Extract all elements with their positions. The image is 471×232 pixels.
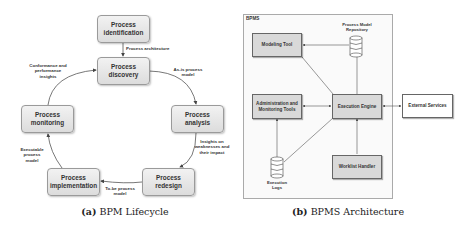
component-admin-monitoring-tools: Administration and Monitoring Tools — [252, 94, 302, 119]
database-icon-logs — [271, 157, 283, 178]
database-icon-repository — [350, 36, 362, 57]
caption-text-b: BPMS Architecture — [311, 206, 404, 217]
caption-bpms-architecture: (b) BPMS Architecture — [278, 206, 418, 217]
label-execution-logs: Execution Logs — [260, 180, 294, 190]
component-execution-engine: Execution Engine — [332, 94, 382, 119]
component-modeling-tool: Modeling Tool — [252, 33, 302, 57]
component-external-services: External Services — [402, 94, 453, 118]
label-process-model-repository: Process Model Repository — [336, 22, 378, 32]
caption-prefix-b: (b) — [292, 206, 308, 217]
component-worklist-handler: Worklist Handler — [332, 155, 382, 179]
architecture-connectors — [0, 0, 471, 232]
